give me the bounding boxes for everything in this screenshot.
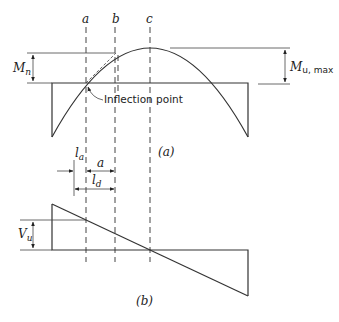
mu-max-label: Mu, max [289,60,334,75]
a-dimension-label: a [97,156,104,170]
shear-diagram: Vu (b) [18,204,248,308]
caption-a: (a) [158,145,175,159]
vu-label: Vu [18,227,33,243]
inflection-pointer-arrow [88,87,103,100]
ld-label: ld [92,173,102,189]
tangent-line [86,53,116,83]
la-label: la [75,146,84,162]
caption-b: (b) [136,294,153,308]
section-label-b: b [112,12,120,26]
mn-label: Mn [12,61,31,77]
section-label-a: a [82,12,89,26]
inflection-point-label: Inflection point [104,93,183,105]
diagram-canvas: a b c Mn Mu, max Inflection point (a) la [0,0,339,322]
moment-diagram: Mn Mu, max Inflection point (a) [12,48,334,159]
section-lines: a b c [82,12,153,262]
section-label-c: c [146,12,153,26]
